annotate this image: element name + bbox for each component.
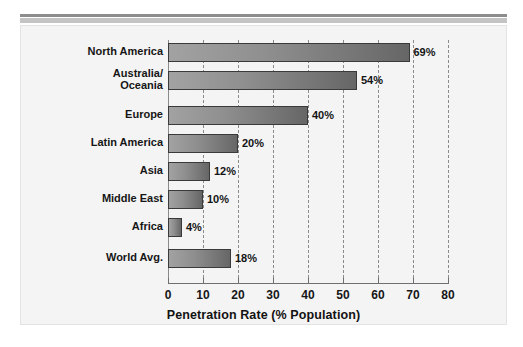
x-tick-label-80: 80 [428,288,468,302]
bar-value-label: 40% [308,106,334,125]
x-tick-60 [378,278,379,284]
x-tick-label-50: 50 [323,288,363,302]
bar[interactable] [168,43,410,62]
category-label: Middle East [28,192,168,204]
bar-value-label: 12% [210,162,236,181]
x-tick-label-10: 10 [183,288,223,302]
category-label: Europe [28,108,168,120]
bar-value-label: 20% [238,134,264,153]
category-label-line: Australia/ [28,67,163,79]
category-label-line: Oceania [28,79,163,91]
bar-value-label: 10% [203,190,229,209]
x-tick-70 [413,278,414,284]
gridline-80 [448,40,449,283]
category-label: Latin America [28,136,168,148]
bar[interactable] [168,190,203,209]
x-tick-0 [168,278,169,284]
x-tick-20 [238,278,239,284]
category-label: Africa [28,220,168,232]
x-tick-label-30: 30 [253,288,293,302]
chart-panel: North AmericaAustralia/OceaniaEuropeLati… [20,25,507,325]
category-axis-labels: North AmericaAustralia/OceaniaEuropeLati… [21,40,168,283]
category-label: Asia [28,164,168,176]
bar-value-label: 54% [357,71,383,90]
x-tick-label-70: 70 [393,288,433,302]
x-tick-50 [343,278,344,284]
x-tick-40 [308,278,309,284]
x-tick-label-40: 40 [288,288,328,302]
category-label: World Avg. [28,251,168,263]
bar[interactable] [168,71,357,90]
header-rule-light [20,18,507,23]
category-label: Australia/Oceania [28,67,168,91]
header-rule-dark [20,14,507,17]
bar-chart-figure: North AmericaAustralia/OceaniaEuropeLati… [0,0,523,347]
x-tick-30 [273,278,274,284]
x-tick-label-0: 0 [148,288,188,302]
x-tick-label-60: 60 [358,288,398,302]
x-tick-label-20: 20 [218,288,258,302]
bar[interactable] [168,218,182,237]
x-tick-80 [448,278,449,284]
category-label: North America [28,45,168,57]
x-axis-title: Penetration Rate (% Population) [21,308,506,322]
bar[interactable] [168,134,238,153]
bar-value-label: 4% [182,218,202,237]
x-tick-10 [203,278,204,284]
bar[interactable] [168,162,210,181]
plot-area: 69%54%40%20%12%10%4%18% [168,40,448,283]
bar[interactable] [168,106,308,125]
bar-value-label: 69% [410,43,436,62]
gridline-70 [413,40,414,283]
bar[interactable] [168,249,231,268]
bar-value-label: 18% [231,249,257,268]
